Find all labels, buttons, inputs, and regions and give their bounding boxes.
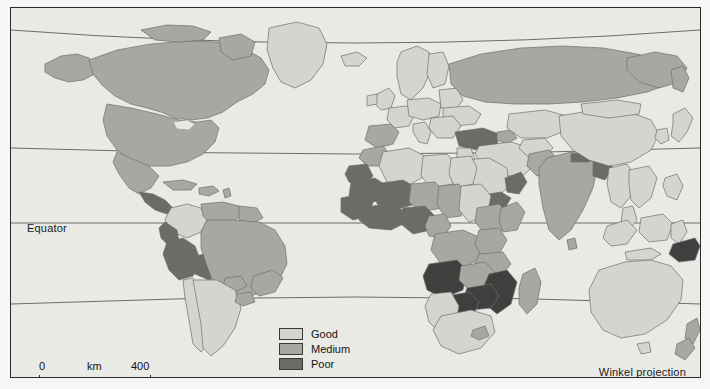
region-ireland xyxy=(367,94,377,106)
legend-item-medium[interactable]: Medium xyxy=(279,342,350,356)
legend-item-poor[interactable]: Poor xyxy=(279,357,350,371)
projection-label: Winkel projection xyxy=(599,366,686,378)
legend-swatch-medium xyxy=(279,343,303,355)
region-egypt xyxy=(449,156,477,188)
scale-unit-label: km xyxy=(87,360,102,372)
legend-label-medium: Medium xyxy=(311,343,350,355)
scale-min-label: 0 xyxy=(39,360,45,372)
legend-swatch-poor xyxy=(279,358,303,370)
map-frame: Equator Winkel projection Good Medium Po… xyxy=(10,7,701,378)
region-germany-poland xyxy=(407,98,441,120)
equator-label: Equator xyxy=(27,222,67,234)
scale-bar-labels: 0 km 400 xyxy=(39,360,179,374)
legend-label-poor: Poor xyxy=(311,358,334,370)
legend-label-good: Good xyxy=(311,328,338,340)
legend: Good Medium Poor xyxy=(279,327,350,371)
legend-swatch-good xyxy=(279,328,303,340)
region-sri-lanka xyxy=(567,238,577,250)
world-map[interactable] xyxy=(11,8,700,377)
scale-max-label: 400 xyxy=(131,360,149,372)
scale-bar: 0 km 400 xyxy=(39,360,179,378)
region-central-asia xyxy=(507,110,567,138)
scale-bar-bracket xyxy=(39,375,151,378)
legend-item-good[interactable]: Good xyxy=(279,327,350,341)
map-page: Equator Winkel projection Good Medium Po… xyxy=(0,0,710,389)
